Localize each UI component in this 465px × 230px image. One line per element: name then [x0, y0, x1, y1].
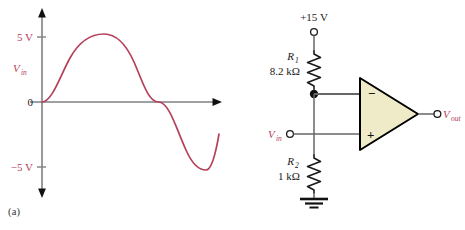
signal-label-vin: V: [13, 62, 21, 74]
resistor-r1-symbol: [308, 51, 321, 89]
signal-label-vin-subscript: in: [21, 68, 27, 77]
opamp-noninverting-sign: +: [367, 127, 374, 142]
waveform-plot-svg: 5 V 0 −5 V V in: [0, 0, 232, 230]
y-tick-label-negative-5v: −5 V: [11, 161, 33, 173]
resistor-r2-symbol: [308, 155, 321, 193]
resistor-r2-value-label: 1 kΩ: [278, 170, 300, 182]
input-label-vin-subscript: in: [276, 134, 282, 143]
y-axis-arrow-bottom-icon: [38, 189, 46, 199]
figure-root: 5 V 0 −5 V V in (a): [0, 0, 465, 230]
circuit-schematic-svg: − + +15 V R 1 8.2 kΩ V in R 2 1 kΩ V: [232, 0, 465, 230]
input-terminal-icon: [287, 131, 294, 138]
y-tick-label-5v: 5 V: [17, 31, 33, 43]
y-axis-arrow-top-icon: [38, 8, 46, 18]
opamp-inverting-sign: −: [368, 86, 375, 101]
output-terminal-icon: [434, 111, 441, 118]
panel-b-circuit: − + +15 V R 1 8.2 kΩ V in R 2 1 kΩ V: [232, 0, 465, 230]
supply-voltage-label: +15 V: [300, 11, 328, 23]
resistor-r1-ref-subscript: 1: [295, 56, 299, 65]
output-label-vout: V: [443, 108, 451, 120]
resistor-r1-ref-label: R: [286, 50, 294, 62]
input-label-vin: V: [268, 128, 276, 140]
panel-a-waveform: 5 V 0 −5 V V in (a): [0, 0, 232, 230]
resistor-r2-ref-label: R: [286, 155, 294, 167]
panel-a-caption: (a): [8, 206, 20, 217]
resistor-r2-ref-subscript: 2: [295, 161, 299, 170]
output-label-vout-subscript: out: [451, 114, 462, 123]
y-tick-label-zero: 0: [28, 96, 34, 108]
supply-terminal-icon: [311, 29, 318, 36]
resistor-r1-value-label: 8.2 kΩ: [270, 65, 300, 77]
x-axis-arrow-right-icon: [213, 98, 223, 106]
